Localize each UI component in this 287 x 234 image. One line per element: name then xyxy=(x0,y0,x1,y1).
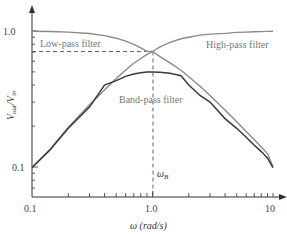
low-pass-label: Low-pass filter xyxy=(40,38,101,49)
y-tick-label-1: 1.0 xyxy=(3,26,16,37)
y-axis-arrow-icon xyxy=(29,5,35,13)
x-tick-label-1: 1.0 xyxy=(145,203,158,214)
x-axis-title: ω (rad/s) xyxy=(130,220,167,232)
high-pass-label: High-pass filter xyxy=(206,39,269,50)
band-pass-label: Band-pass filter xyxy=(119,94,183,105)
y-axis-title: Vout/Vin xyxy=(5,90,18,120)
svg-text:Vout/Vin: Vout/Vin xyxy=(5,90,18,120)
x-tick-label-2: 10 xyxy=(265,203,275,214)
y-tick-label-0: 0.1 xyxy=(12,162,25,173)
filter-response-chart: Low-pass filter High-pass filter Band-pa… xyxy=(0,0,287,234)
x-axis-arrow-icon xyxy=(279,194,287,200)
x-tick-label-0: 0.1 xyxy=(24,203,37,214)
omega-b-label: ωB xyxy=(157,168,169,181)
band-pass-curve xyxy=(32,72,273,168)
x-ticks xyxy=(68,191,273,197)
